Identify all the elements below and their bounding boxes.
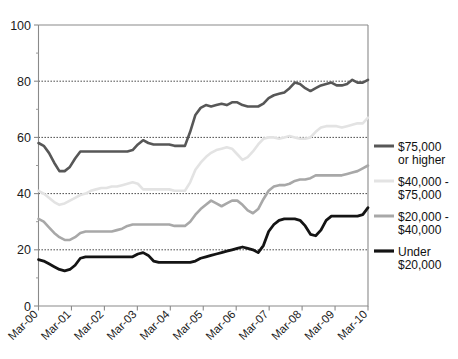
- series-line: [39, 118, 369, 205]
- x-axis-tick-label: Mar-10: [335, 308, 369, 342]
- x-axis-labels: Mar-00Mar-01Mar-02Mar-03Mar-04Mar-05Mar-…: [6, 308, 370, 343]
- x-axis-tick-label: Mar-08: [269, 308, 303, 342]
- y-axis-tick-label: 40: [17, 187, 31, 201]
- x-axis-tick-label: Mar-01: [39, 308, 73, 342]
- x-axis-tick-label: Mar-04: [137, 308, 172, 343]
- series-line: [39, 166, 369, 240]
- legend-label-line1: $20,000 -: [398, 210, 449, 224]
- legend-label-line2: $75,000: [398, 188, 442, 202]
- x-axis-ticks: [39, 306, 369, 311]
- axes-group: [39, 25, 369, 306]
- y-axis-tick-label: 60: [17, 131, 31, 145]
- x-axis-tick-label: Mar-00: [6, 308, 40, 342]
- x-axis-tick-label: Mar-05: [170, 308, 204, 342]
- series-lines-group: [39, 80, 369, 271]
- y-axis-tick-label: 20: [17, 243, 31, 257]
- y-axis-tick-label: 80: [17, 75, 31, 89]
- y-axis-tick-label: 100: [10, 19, 31, 33]
- x-axis-tick-label: Mar-06: [203, 308, 237, 342]
- chart-legend: $75,000or higher$40,000 -$75,000$20,000 …: [374, 140, 449, 272]
- chart-container: 020406080100 Mar-00Mar-01Mar-02Mar-03Mar…: [0, 0, 458, 359]
- y-axis-labels: 020406080100: [10, 19, 31, 314]
- axis-frame: [39, 25, 369, 306]
- x-axis-tick-label: Mar-09: [302, 308, 336, 342]
- legend-label-line1: $40,000 -: [398, 175, 449, 189]
- series-line: [39, 208, 369, 271]
- x-axis-tick-label: Mar-07: [236, 308, 270, 342]
- legend-label-line1: Under: [398, 245, 431, 259]
- series-line: [39, 80, 369, 171]
- y-axis-ticks: [34, 25, 39, 306]
- x-axis-tick-label: Mar-03: [105, 308, 139, 342]
- legend-label-line2: $40,000: [398, 223, 442, 237]
- legend-label-line2: $20,000: [398, 258, 442, 272]
- x-axis-tick-label: Mar-02: [72, 308, 106, 342]
- line-chart: 020406080100 Mar-00Mar-01Mar-02Mar-03Mar…: [0, 0, 458, 359]
- legend-label-line1: $75,000: [398, 140, 442, 154]
- legend-label-line2: or higher: [398, 153, 445, 167]
